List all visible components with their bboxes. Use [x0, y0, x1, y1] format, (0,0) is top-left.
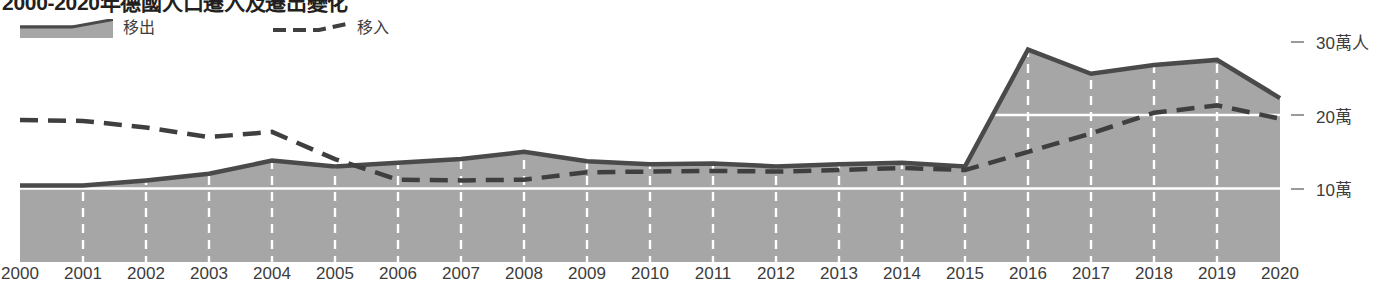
y-tick-label: 10萬	[1316, 176, 1352, 201]
y-tick-mark-icon	[1291, 41, 1304, 43]
x-axis-tick-2015: 2015	[933, 264, 997, 284]
x-axis-tick-2010: 2010	[618, 264, 682, 284]
x-axis-tick-2007: 2007	[429, 264, 493, 284]
x-axis-tick-2009: 2009	[555, 264, 619, 284]
y-axis-tick-10: 10萬	[1291, 179, 1381, 199]
y-tick-label: 30萬人	[1316, 29, 1369, 54]
x-axis-tick-2006: 2006	[366, 264, 430, 284]
y-tick-mark-icon	[1291, 188, 1304, 190]
x-axis-tick-2016: 2016	[996, 264, 1060, 284]
x-axis-tick-2012: 2012	[744, 264, 808, 284]
x-axis-tick-2000: 2000	[0, 264, 52, 284]
chart-container: 2000-2020年德國人口遷入及遷出變化 移出 移入	[0, 0, 1381, 293]
y-tick-label: 20萬	[1316, 103, 1352, 128]
x-axis-tick-2008: 2008	[492, 264, 556, 284]
x-axis-tick-2001: 2001	[51, 264, 115, 284]
x-axis: 2000200120022003200420052006200720082009…	[0, 264, 1381, 293]
x-axis-tick-2011: 2011	[681, 264, 745, 284]
chart-plot-area	[0, 0, 1381, 293]
x-axis-tick-2004: 2004	[240, 264, 304, 284]
x-axis-tick-2014: 2014	[870, 264, 934, 284]
x-axis-tick-2019: 2019	[1185, 264, 1249, 284]
x-axis-tick-2017: 2017	[1059, 264, 1123, 284]
x-axis-tick-2003: 2003	[177, 264, 241, 284]
y-axis-tick-30: 30萬人	[1291, 32, 1381, 52]
y-tick-mark-icon	[1291, 114, 1304, 116]
x-axis-tick-2020: 2020	[1248, 264, 1312, 284]
x-axis-tick-2005: 2005	[303, 264, 367, 284]
x-axis-tick-2018: 2018	[1122, 264, 1186, 284]
x-axis-tick-2002: 2002	[114, 264, 178, 284]
y-axis-tick-20: 20萬	[1291, 105, 1381, 125]
x-axis-tick-2013: 2013	[807, 264, 871, 284]
